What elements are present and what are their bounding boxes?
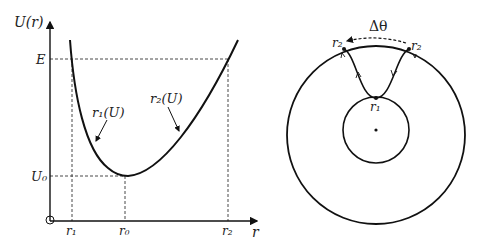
curve-label-r1: r₁(U) [92, 105, 125, 120]
x-tick-r2: r₂ [222, 224, 233, 238]
outer-circle [287, 46, 465, 224]
guide-lines [50, 59, 228, 221]
x-tick-r1: r₁ [66, 224, 77, 238]
y-tick-U0: U₀ [31, 169, 48, 184]
curve-label-r2: r₂(U) [150, 91, 183, 106]
r2-left-point [342, 47, 346, 51]
r1-pointer-arrow [96, 120, 107, 141]
r2-left-label: r₂ [332, 36, 343, 50]
x-tick-r0: r₀ [119, 224, 130, 238]
r1-label: r₁ [370, 100, 381, 114]
outer-arrow-left [341, 53, 345, 58]
diagram-canvas: U(r) r E U₀ r₁ r₀ r₂ r₁(U) r₂(U) Δθ r₂ r… [0, 0, 479, 241]
y-tick-E: E [35, 52, 46, 67]
y-axis-label: U(r) [14, 14, 43, 30]
orbit-path [344, 49, 409, 98]
delta-theta-label: Δθ [369, 18, 388, 34]
potential-energy-plot: U(r) r E U₀ r₁ r₀ r₂ r₁(U) r₂(U) [14, 14, 260, 240]
delta-theta-arc [347, 38, 406, 43]
r2-right-label: r₂ [411, 39, 422, 53]
r2-pointer-arrow [168, 107, 179, 131]
center-dot [374, 128, 377, 131]
orbit-diagram: Δθ r₂ r₂ r₁ [287, 18, 465, 224]
x-axis-label: r [252, 224, 260, 240]
